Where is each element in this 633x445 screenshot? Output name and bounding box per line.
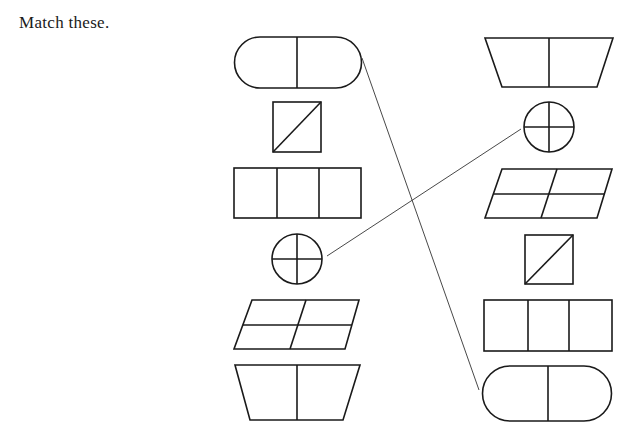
right-rectangle-split-3[interactable] [484, 300, 612, 351]
right-circle-cross[interactable] [524, 102, 574, 152]
left-pill-split-2[interactable] [235, 37, 362, 88]
left-trapezoid-split-2[interactable] [235, 365, 360, 420]
matching-exercise [0, 0, 633, 445]
left-square-diagonal[interactable] [273, 102, 321, 152]
match-line-pill [362, 58, 479, 390]
left-circle-cross[interactable] [272, 234, 322, 284]
left-rectangle-split-3[interactable] [234, 168, 361, 218]
right-square-diagonal[interactable] [525, 235, 573, 284]
right-pill-split-2[interactable] [483, 366, 612, 421]
left-parallelogram-split-4[interactable] [234, 300, 359, 349]
match-line-circle [327, 129, 521, 256]
right-trapezoid-split-2[interactable] [485, 38, 613, 87]
right-parallelogram-split-4[interactable] [485, 169, 612, 218]
